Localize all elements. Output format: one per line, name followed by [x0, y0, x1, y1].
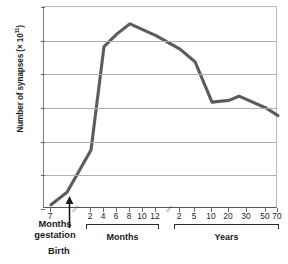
y-axis-tick-mark [41, 7, 45, 8]
gridline [44, 41, 276, 42]
x-axis-group-brace [174, 224, 279, 229]
y-axis-title: Number of synapses (× 1011) [12, 19, 26, 139]
synapse-density-chart: Number of synapses (× 1011) 04812162024 … [0, 0, 288, 264]
y-axis-title-exponent: 11 [14, 28, 20, 34]
gridline [44, 175, 276, 176]
x-axis-group-brace [86, 224, 159, 229]
y-axis-tick-mark [41, 108, 45, 109]
plot-area: 04812162024 [43, 6, 277, 208]
y-axis-title-paren: ) [16, 25, 25, 28]
birth-label: Birth [48, 246, 70, 256]
x-axis-tick-label: 12 [144, 212, 166, 221]
gestation-label-line1: Months [22, 219, 88, 230]
y-axis-title-text: Number of synapses (× 10 [16, 33, 25, 132]
x-axis-group-label: Years [174, 232, 279, 242]
y-axis-tick-mark [41, 74, 45, 75]
x-axis-group-label: Months [86, 232, 159, 242]
gridline [44, 108, 276, 109]
y-axis-tick-mark [41, 175, 45, 176]
gridline [44, 142, 276, 143]
gestation-label-line2: gestation [22, 230, 88, 241]
y-axis-tick-mark [41, 142, 45, 143]
x-axis-tick-label: 70 [266, 212, 288, 221]
gestation-group-label: Months gestation [22, 219, 88, 241]
gridline [44, 74, 276, 75]
data-polyline [51, 24, 278, 205]
y-axis-tick-mark [41, 41, 45, 42]
